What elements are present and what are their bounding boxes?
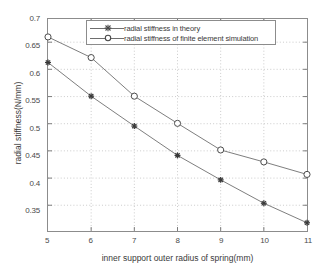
legend-item-simulation: radial stiffness of finite element simul…	[87, 33, 275, 43]
data-point	[174, 120, 180, 126]
data-point	[131, 123, 137, 129]
x-tick-label: 9	[209, 236, 233, 245]
x-axis-title: inner support outer radius of spring(mm)	[47, 253, 308, 263]
x-tick-label: 7	[122, 236, 146, 245]
legend-swatch-simulation	[90, 33, 124, 43]
data-point	[218, 147, 224, 153]
data-point	[304, 171, 310, 177]
y-tick-label: 0.65	[0, 41, 40, 50]
chart-figure: 0.7 0.65 0.6 0.55 0.5 0.45 0.4 0.35 5 6 …	[0, 0, 332, 273]
data-point	[131, 93, 137, 99]
y-tick-label: 0.7	[0, 14, 40, 23]
y-tick-label: 0.35	[0, 206, 40, 215]
x-tick-label: 10	[253, 236, 277, 245]
data-point	[261, 200, 267, 206]
legend-item-theory: radial stiffness in theory	[87, 23, 275, 33]
circle-marker-icon	[104, 34, 112, 42]
data-point	[45, 60, 51, 66]
plot-area	[47, 18, 308, 232]
legend-swatch-theory	[90, 23, 124, 33]
data-point	[88, 55, 94, 61]
data-point	[45, 34, 51, 40]
x-tick-label: 11	[296, 236, 320, 245]
legend-label-theory: radial stiffness in theory	[124, 24, 200, 33]
chart-legend: radial stiffness in theory radial stiffn…	[86, 20, 276, 45]
x-tick-label: 6	[79, 236, 103, 245]
x-tick-label: 5	[35, 236, 59, 245]
legend-label-simulation: radial stiffness of finite element simul…	[124, 34, 258, 43]
data-point	[88, 93, 94, 99]
x-tick-label: 8	[166, 236, 190, 245]
data-point	[175, 152, 181, 158]
plot-canvas	[48, 19, 307, 231]
star-marker-icon	[104, 24, 112, 32]
data-point	[218, 177, 224, 183]
y-axis-title: radial stiffness(N/mm)	[13, 53, 23, 193]
data-point	[304, 220, 310, 226]
data-point	[261, 159, 267, 165]
